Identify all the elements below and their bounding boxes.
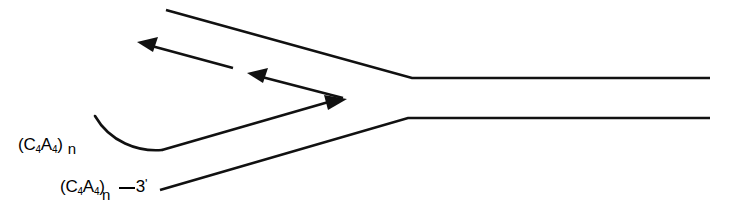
label-lower-base-a: A: [83, 177, 94, 196]
rightward-arrow-shaft: [162, 101, 332, 150]
hairpin-hook-curve: [95, 116, 162, 150]
label-lower-base-c: C: [65, 177, 77, 196]
long-leftward-arrow-shaft: [148, 45, 233, 68]
long-leftward-arrow: [137, 37, 233, 68]
label-telomere-repeat-lower: (C4A4)n3': [60, 177, 147, 197]
top-strand-line: [166, 10, 710, 78]
label-upper-repeat-n: n: [68, 141, 76, 156]
bottom-strand-line: [160, 118, 710, 190]
label-lower-terminus-number: 3: [136, 177, 145, 196]
label-lower-prime-mark: ': [145, 176, 147, 191]
label-lower-three-prime: 3': [136, 177, 148, 195]
label-lower-repeat-group: (C4A4)n: [60, 178, 105, 197]
label-upper-base-c: C: [23, 135, 35, 154]
short-leftward-arrow-head: [247, 68, 268, 83]
label-telomere-repeat-upper: (C4A4)n: [18, 136, 76, 156]
long-leftward-arrow-head: [137, 37, 158, 52]
label-upper-base-a: A: [41, 135, 52, 154]
label-lower-bond-dash: [119, 187, 135, 189]
short-leftward-arrow-shaft: [258, 76, 343, 98]
label-lower-repeat-n: n: [102, 187, 110, 202]
rightward-arrow: [162, 95, 347, 150]
figure-root: (C4A4)n (C4A4)n3': [0, 0, 731, 220]
label-upper-close-paren: ): [57, 135, 62, 154]
short-leftward-arrow: [247, 68, 343, 98]
